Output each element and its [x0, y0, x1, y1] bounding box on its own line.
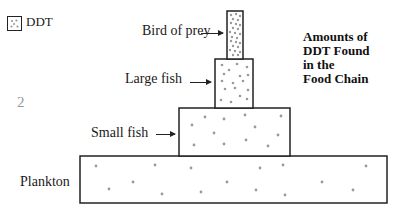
bird-of-prey-box	[227, 11, 243, 59]
label-small-fish: Small fish	[91, 125, 148, 141]
label-plankton: Plankton	[20, 174, 70, 190]
label-bird-of-prey: Bird of prey	[142, 23, 210, 39]
label-large-fish: Large fish	[125, 71, 182, 87]
arrow-bird-of-prey-icon	[201, 33, 223, 34]
arrow-large-fish-icon	[190, 82, 211, 83]
small-fish-box	[179, 108, 290, 156]
plankton-box	[80, 156, 387, 203]
large-fish-box	[215, 59, 253, 108]
arrow-small-fish-icon	[156, 134, 175, 135]
